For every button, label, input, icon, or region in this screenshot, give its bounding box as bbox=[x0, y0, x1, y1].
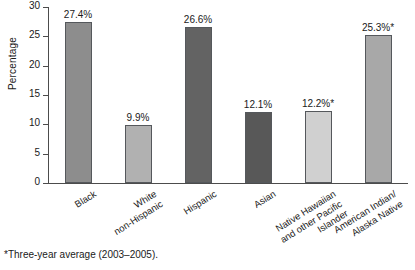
bar: 27.4% bbox=[65, 22, 92, 183]
y-axis-tick: 15 bbox=[43, 95, 48, 96]
bar: 12.2%* bbox=[305, 111, 332, 183]
y-axis-tick: 30 bbox=[43, 7, 48, 8]
x-axis-category-label-line: Asian bbox=[252, 188, 278, 210]
bar: 25.3%* bbox=[365, 35, 392, 183]
bar-value-label: 27.4% bbox=[64, 9, 92, 20]
x-axis-category-label: Black bbox=[72, 188, 98, 210]
y-axis-tick-label: 20 bbox=[29, 59, 40, 70]
x-axis-category-label: Whitenon-Hispanic bbox=[105, 188, 164, 237]
bar: 12.1% bbox=[245, 112, 272, 183]
y-axis-tick: 25 bbox=[43, 36, 48, 37]
x-axis-line bbox=[48, 183, 408, 184]
plot-area: 051015202530 27.4%9.9%26.6%12.1%12.2%*25… bbox=[48, 7, 408, 183]
y-axis-tick: 20 bbox=[43, 66, 48, 67]
bar-value-label: 12.2%* bbox=[302, 98, 334, 109]
x-axis-category-label-line: Black bbox=[72, 188, 98, 210]
x-axis-category-label-line: Hispanic bbox=[181, 188, 218, 217]
x-axis-category-label: Asian bbox=[252, 188, 278, 210]
y-axis-tick-label: 15 bbox=[29, 88, 40, 99]
x-axis-category-label: Hispanic bbox=[181, 188, 218, 217]
y-axis-tick: 5 bbox=[43, 154, 48, 155]
y-axis-tick-label: 0 bbox=[34, 176, 40, 187]
y-axis-tick-label: 10 bbox=[29, 117, 40, 128]
y-axis-tick: 0 bbox=[43, 183, 48, 184]
bar-chart-figure: Percentage 051015202530 27.4%9.9%26.6%12… bbox=[0, 0, 415, 270]
bar: 9.9% bbox=[125, 125, 152, 183]
y-axis-tick-label: 30 bbox=[29, 0, 40, 11]
bar: 26.6% bbox=[185, 27, 212, 183]
y-axis-title: Percentage bbox=[7, 19, 18, 109]
y-axis-line bbox=[48, 7, 49, 183]
bar-value-label: 9.9% bbox=[127, 112, 150, 123]
bar-value-label: 26.6% bbox=[184, 14, 212, 25]
bar-value-label: 12.1% bbox=[244, 99, 272, 110]
y-axis-tick-label: 5 bbox=[34, 147, 40, 158]
bar-value-label: 25.3%* bbox=[362, 22, 394, 33]
chart-footnote: *Three-year average (2003–2005). bbox=[4, 249, 158, 260]
y-axis-tick: 10 bbox=[43, 124, 48, 125]
y-axis-tick-label: 25 bbox=[29, 29, 40, 40]
